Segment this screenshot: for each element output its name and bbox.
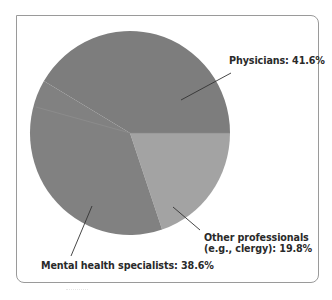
cropped-caption-artifact	[66, 289, 88, 296]
label-other-line1: Other professionals	[204, 232, 309, 243]
label-physicians: Physicians: 41.6%	[229, 55, 325, 66]
label-mental-health: Mental health specialists: 38.6%	[41, 260, 214, 271]
pie-chart	[0, 0, 332, 300]
label-other-line2: (e.g., clergy): 19.8%	[204, 243, 312, 254]
